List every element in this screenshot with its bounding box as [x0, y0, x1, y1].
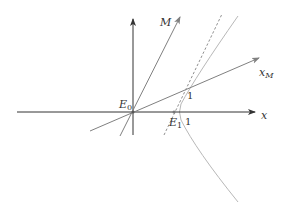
unit-label-x: 1 [185, 116, 191, 127]
origin-label-sub: 0 [127, 103, 132, 112]
origin-label-base: E [118, 98, 127, 111]
event1-label-sub: 1 [177, 121, 182, 130]
xm-axis-label-sub: M [264, 71, 274, 80]
event1-label-base: E [168, 116, 177, 129]
event1-point [173, 111, 176, 114]
origin-label: E0 [118, 98, 132, 112]
m-axis-label: M [159, 16, 172, 29]
spacetime-diagram: M xM x E0 E1 1 1 [0, 0, 285, 211]
unit-label-xm: 1 [187, 90, 193, 101]
xm-axis-label: xM [259, 66, 274, 80]
x-axis-label: x [261, 109, 268, 122]
hyperbola-curve [180, 16, 239, 202]
